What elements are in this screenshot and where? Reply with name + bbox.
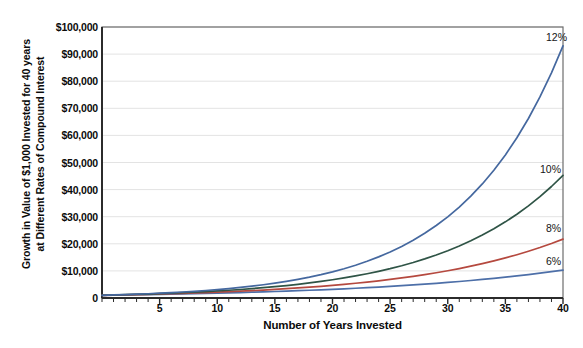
y-tick-label: $60,000 bbox=[20, 129, 98, 141]
y-tick-label: $70,000 bbox=[20, 102, 98, 114]
x-tick-label: 40 bbox=[557, 302, 569, 314]
x-axis-title: Number of Years Invested bbox=[102, 319, 563, 331]
x-tick-label: 20 bbox=[327, 302, 339, 314]
x-tick-label: 10 bbox=[211, 302, 223, 314]
y-axis-tick-labels: 0$10,000$20,000$30,000$40,000$50,000$60,… bbox=[18, 0, 98, 348]
y-tick-label: 0 bbox=[20, 292, 98, 304]
series-label-6pct: 6% bbox=[546, 255, 561, 267]
x-tick-label: 25 bbox=[384, 302, 396, 314]
series-label-12pct: 12% bbox=[546, 31, 567, 43]
x-tick-label: 30 bbox=[442, 302, 454, 314]
x-tick-label: 15 bbox=[269, 302, 281, 314]
y-tick-label: $10,000 bbox=[20, 265, 98, 277]
series-label-8pct: 8% bbox=[546, 222, 561, 234]
y-tick-label: $90,000 bbox=[20, 48, 98, 60]
y-tick-label: $30,000 bbox=[20, 211, 98, 223]
y-tick-label: $100,000 bbox=[20, 21, 98, 33]
y-tick-label: $20,000 bbox=[20, 238, 98, 250]
x-tick-label: 5 bbox=[157, 302, 163, 314]
y-tick-label: $80,000 bbox=[20, 75, 98, 87]
x-tick-label: 35 bbox=[500, 302, 512, 314]
compound-interest-line-chart: Growth in Value of $1,000 Invested for 4… bbox=[0, 0, 583, 348]
y-tick-label: $50,000 bbox=[20, 157, 98, 169]
y-tick-label: $40,000 bbox=[20, 184, 98, 196]
series-label-10pct: 10% bbox=[540, 163, 561, 175]
